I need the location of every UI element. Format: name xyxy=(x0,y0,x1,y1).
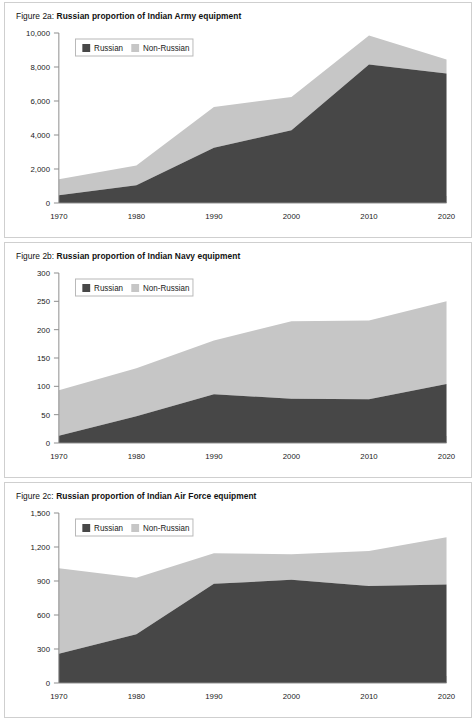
figure-2b: Figure 2b: Russian proportion of Indian … xyxy=(4,242,472,478)
x-tick-label: 2020 xyxy=(438,692,456,701)
legend-label-non-russian: Non-Russian xyxy=(143,284,189,293)
legend-swatch-russian xyxy=(82,44,90,52)
x-tick-label: 2000 xyxy=(283,452,301,461)
x-tick-label: 1990 xyxy=(205,452,223,461)
figure-2c-chart: 03006009001,2001,50019701980199020002010… xyxy=(5,505,471,715)
x-tick-label: 1980 xyxy=(128,692,146,701)
chart-legend: RussianNon-Russian xyxy=(75,519,192,536)
x-tick-label: 2010 xyxy=(360,452,378,461)
y-tick-label: 50 xyxy=(41,411,50,420)
x-tick-label: 2010 xyxy=(360,692,378,701)
x-tick-label: 2000 xyxy=(283,212,301,221)
figure-2b-label: Figure 2b: xyxy=(16,251,54,261)
figure-2c-plot: 03006009001,2001,50019701980199020002010… xyxy=(5,505,471,715)
y-tick-label: 100 xyxy=(37,382,51,391)
legend-swatch-russian xyxy=(82,284,90,292)
y-tick-label: 0 xyxy=(46,439,51,448)
legend-label-russian: Russian xyxy=(94,524,123,533)
figure-2a-caption: Figure 2a: Russian proportion of Indian … xyxy=(16,11,241,21)
figure-2a: Figure 2a: Russian proportion of Indian … xyxy=(4,2,472,238)
x-tick-label: 2020 xyxy=(438,452,456,461)
figure-2c-caption: Figure 2c: Russian proportion of Indian … xyxy=(16,491,256,501)
x-tick-label: 2010 xyxy=(360,212,378,221)
y-tick-label: 1,200 xyxy=(30,543,50,552)
figure-2b-title: Russian proportion of Indian Navy equipm… xyxy=(57,251,241,261)
figure-2a-chart: 02,0004,0006,0008,00010,0001970198019902… xyxy=(5,25,471,235)
chart-legend: RussianNon-Russian xyxy=(75,39,192,56)
legend-label-non-russian: Non-Russian xyxy=(143,524,189,533)
y-tick-label: 300 xyxy=(37,645,51,654)
y-tick-label: 6,000 xyxy=(30,97,50,106)
x-tick-label: 1990 xyxy=(205,212,223,221)
y-tick-label: 250 xyxy=(37,297,51,306)
y-tick-label: 8,000 xyxy=(30,63,50,72)
y-tick-label: 4,000 xyxy=(30,131,50,140)
figures-page: Figure 2a: Russian proportion of Indian … xyxy=(0,0,476,725)
y-tick-label: 300 xyxy=(37,269,51,278)
figure-2b-chart: 0501001502002503001970198019902000201020… xyxy=(5,265,471,475)
figure-2a-label: Figure 2a: xyxy=(16,11,54,21)
y-tick-label: 200 xyxy=(37,326,51,335)
figure-2c-label: Figure 2c: xyxy=(16,491,54,501)
legend-swatch-non-russian xyxy=(131,44,139,52)
x-tick-label: 2020 xyxy=(438,212,456,221)
figure-2c: Figure 2c: Russian proportion of Indian … xyxy=(4,482,472,718)
x-tick-label: 1980 xyxy=(128,452,146,461)
y-tick-label: 10,000 xyxy=(26,29,51,38)
y-tick-label: 1,500 xyxy=(30,509,50,518)
x-tick-label: 1980 xyxy=(128,212,146,221)
figure-2a-title: Russian proportion of Indian Army equipm… xyxy=(57,11,242,21)
figure-2a-plot: 02,0004,0006,0008,00010,0001970198019902… xyxy=(5,25,471,235)
y-tick-label: 900 xyxy=(37,577,51,586)
y-tick-label: 150 xyxy=(37,354,51,363)
legend-swatch-non-russian xyxy=(131,284,139,292)
x-tick-label: 1970 xyxy=(50,692,68,701)
x-tick-label: 1970 xyxy=(50,452,68,461)
y-tick-label: 600 xyxy=(37,611,51,620)
x-tick-label: 1970 xyxy=(50,212,68,221)
y-tick-label: 0 xyxy=(46,199,51,208)
legend-label-russian: Russian xyxy=(94,44,123,53)
legend-swatch-non-russian xyxy=(131,524,139,532)
x-tick-label: 1990 xyxy=(205,692,223,701)
legend-label-non-russian: Non-Russian xyxy=(143,44,189,53)
x-tick-label: 2000 xyxy=(283,692,301,701)
legend-label-russian: Russian xyxy=(94,284,123,293)
figure-2c-title: Russian proportion of Indian Air Force e… xyxy=(56,491,256,501)
y-tick-label: 2,000 xyxy=(30,165,50,174)
y-tick-label: 0 xyxy=(46,679,51,688)
figure-2b-caption: Figure 2b: Russian proportion of Indian … xyxy=(16,251,240,261)
chart-legend: RussianNon-Russian xyxy=(75,279,192,296)
figure-2b-plot: 0501001502002503001970198019902000201020… xyxy=(5,265,471,475)
legend-swatch-russian xyxy=(82,524,90,532)
